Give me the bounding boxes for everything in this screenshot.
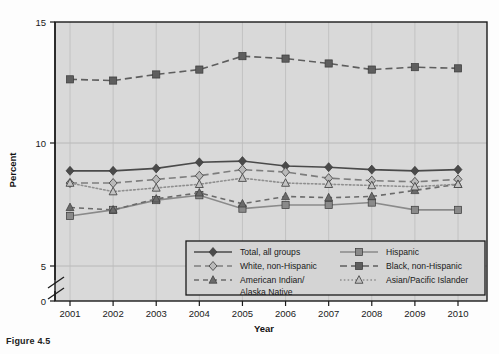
data-point — [454, 65, 461, 72]
x-axis-tick-label: 2003 — [146, 308, 167, 319]
figure-container: 151050Percent200120022003200420052006200… — [0, 0, 499, 354]
data-point — [411, 64, 418, 71]
data-point — [66, 212, 73, 219]
x-axis-tick-label: 2008 — [361, 308, 382, 319]
x-axis-title: Year — [254, 323, 274, 334]
data-point — [196, 66, 203, 73]
data-point — [454, 206, 461, 213]
legend-label: American Indian/ — [240, 275, 305, 285]
data-point — [110, 77, 117, 84]
x-axis-tick-label: 2009 — [404, 308, 425, 319]
line-chart: 151050Percent200120022003200420052006200… — [0, 0, 499, 354]
x-axis-tick-label: 2001 — [59, 308, 80, 319]
x-axis-tick-label: 2002 — [103, 308, 124, 319]
x-axis-tick-label: 2005 — [232, 308, 253, 319]
legend-marker — [355, 248, 362, 255]
data-point — [66, 76, 73, 83]
data-point — [153, 71, 160, 78]
x-axis-tick-label: 2007 — [318, 308, 339, 319]
data-point — [282, 201, 289, 208]
y-axis-tick-label: 10 — [35, 138, 46, 149]
x-axis-tick-label: 2006 — [275, 308, 296, 319]
legend-label: Total, all groups — [240, 247, 300, 257]
legend-label-line2: Alaska Native — [240, 287, 293, 297]
figure-caption: Figure 4.5 — [6, 336, 126, 352]
data-point — [325, 201, 332, 208]
legend-label: Hispanic — [386, 247, 420, 257]
data-point — [239, 53, 246, 60]
data-point — [368, 66, 375, 73]
data-point — [282, 55, 289, 62]
legend-marker — [355, 262, 362, 269]
y-axis-title: Percent — [7, 152, 18, 188]
x-axis-tick-label: 2004 — [189, 308, 210, 319]
legend-label: Asian/Pacific Islander — [386, 275, 468, 285]
legend-label: Black, non-Hispanic — [386, 261, 463, 271]
data-point — [325, 60, 332, 67]
x-axis-tick-label: 2010 — [447, 308, 468, 319]
y-axis-tick-label: 0 — [41, 296, 46, 307]
data-point — [411, 206, 418, 213]
legend-label: White, non-Hispanic — [240, 261, 318, 271]
legend: Total, all groupsHispanicWhite, non-Hisp… — [186, 241, 485, 297]
y-axis-tick-label: 5 — [41, 261, 46, 272]
y-axis-tick-label: 15 — [35, 17, 46, 28]
